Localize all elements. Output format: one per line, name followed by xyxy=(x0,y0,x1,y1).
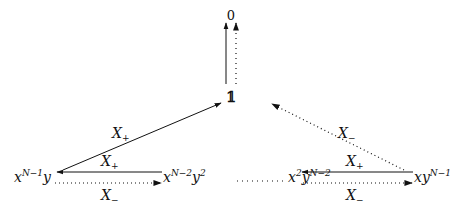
diag-left-solid-arrow xyxy=(63,103,221,170)
node-zero: 0 xyxy=(227,8,235,23)
left-top-label: X+ xyxy=(100,153,119,171)
right-bottom-label: X− xyxy=(345,187,364,205)
left-bottom-label: X− xyxy=(100,187,119,205)
node-x-n-2-y-2: xN−2y2 xyxy=(163,168,206,185)
diag-left-label: X+ xyxy=(111,125,130,143)
node-x-y-n-1: xyN−1 xyxy=(414,168,451,185)
sl2-module-diagram: 0 𝟙 X+ X− xN−1y X+ X− xN−2y2 x2yN−2 X+ X… xyxy=(0,0,461,210)
node-identity: 𝟙 xyxy=(226,89,236,105)
diag-right-label: X− xyxy=(337,125,356,143)
node-x-n-1-y: xN−1y xyxy=(14,168,52,185)
node-x-2-y-n-2: x2yN−2 xyxy=(288,168,331,185)
right-top-label: X+ xyxy=(345,153,364,171)
